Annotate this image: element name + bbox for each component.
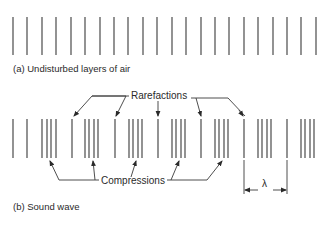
wavelength-annotation: λ — [244, 160, 287, 194]
compressions-annotation: Compressions — [50, 161, 222, 186]
sound-wave-layers — [13, 119, 314, 158]
rarefaction-leader-2 — [92, 96, 126, 116]
wavelength-symbol: λ — [262, 178, 267, 189]
compression-leader-4 — [171, 161, 179, 180]
rarefactions-label: Rarefactions — [131, 90, 187, 101]
rarefaction-leader-4 — [196, 98, 201, 116]
caption-sound-wave: (b) Sound wave — [13, 201, 80, 212]
caption-undisturbed-air: (a) Undisturbed layers of air — [13, 63, 130, 74]
compression-leader-1 — [50, 161, 99, 180]
compression-leader-2 — [93, 161, 95, 180]
rarefactions-annotation: Rarefactions — [74, 90, 245, 116]
compressions-label: Compressions — [101, 175, 165, 186]
undisturbed-air-layers — [13, 17, 316, 55]
rarefaction-leader-bar — [191, 98, 245, 116]
sound-wave-diagram: (a) Undisturbed layers of air Rarefactio… — [0, 0, 334, 225]
